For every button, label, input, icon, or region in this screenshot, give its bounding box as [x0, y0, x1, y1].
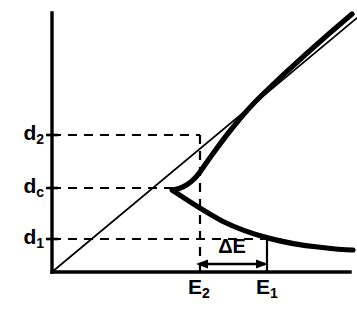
y-tick-label-d2-sub: 2	[36, 131, 44, 147]
diagonal-reference-line	[52, 18, 357, 272]
y-tick-label-d2: d2	[8, 122, 44, 146]
y-tick-label-d1: d1	[8, 226, 44, 250]
fold-curve	[172, 14, 353, 250]
delta-e-arrowhead-left	[196, 260, 208, 269]
y-tick-label-d1-sub: 1	[36, 235, 44, 251]
figure-container: d2 dc d1 E2 E1 ΔE	[0, 0, 357, 317]
delta-e-label: ΔE	[196, 236, 268, 256]
x-tick-label-e2-sub: 2	[202, 285, 210, 301]
x-tick-label-e1-base: E	[256, 275, 270, 298]
y-tick-label-dc-sub: c	[36, 184, 44, 200]
x-tick-label-e2: E2	[176, 276, 222, 300]
x-tick-label-e1-sub: 1	[270, 285, 278, 301]
x-tick-label-e1: E1	[244, 276, 290, 300]
delta-e-arrow	[196, 260, 268, 269]
y-tick-label-dc: dc	[8, 175, 44, 199]
y-tick-label-d1-base: d	[23, 225, 36, 248]
plot-canvas	[0, 0, 357, 317]
delta-e-label-text: ΔE	[218, 235, 246, 257]
y-tick-label-dc-base: d	[23, 174, 36, 197]
y-tick-label-d2-base: d	[23, 121, 36, 144]
x-tick-label-e2-base: E	[188, 275, 202, 298]
